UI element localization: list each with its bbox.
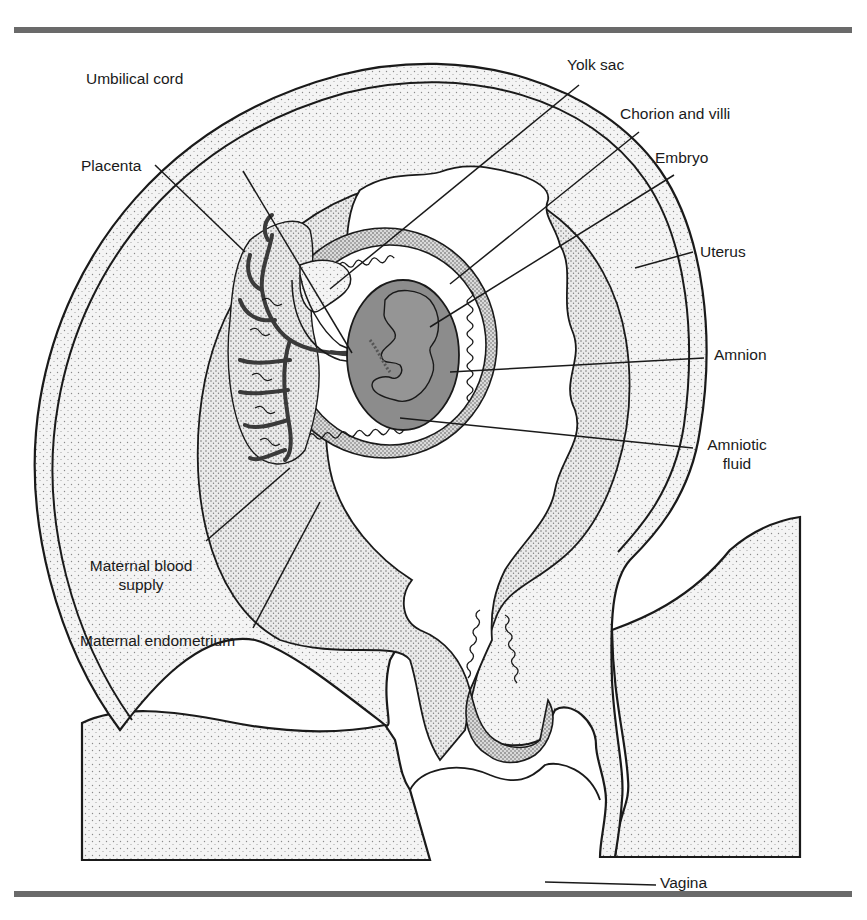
pelvic-tissue-right (612, 517, 800, 857)
label-amniotic-fluid: Amniotic fluid (697, 435, 777, 473)
label-chorion-and-villi: Chorion and villi (620, 104, 730, 123)
label-maternal-blood-supply-line2: supply (77, 575, 205, 594)
label-yolk-sac: Yolk sac (567, 55, 624, 74)
label-vagina: Vagina (660, 873, 707, 892)
label-maternal-blood-supply: Maternal blood supply (77, 556, 205, 594)
label-maternal-blood-supply-line1: Maternal blood (77, 556, 205, 575)
label-umbilical-cord: Umbilical cord (86, 69, 183, 88)
label-maternal-endometrium: Maternal endometrium (80, 631, 235, 650)
pelvic-tissue-left (82, 711, 430, 860)
label-amnion: Amnion (714, 345, 767, 364)
label-amniotic-fluid-line1: Amniotic (697, 435, 777, 454)
label-placenta: Placenta (81, 156, 141, 175)
label-uterus: Uterus (700, 242, 746, 261)
label-embryo: Embryo (655, 148, 708, 167)
label-amniotic-fluid-line2: fluid (697, 454, 777, 473)
